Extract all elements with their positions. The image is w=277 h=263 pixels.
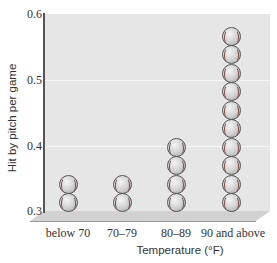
baseball-icon: [222, 101, 241, 120]
y-tick-label: 0.6: [14, 8, 42, 20]
baseball-icon: [113, 193, 132, 212]
baseball-icon: [222, 156, 241, 175]
column-below-70: [58, 175, 78, 212]
baseball-icon: [222, 175, 241, 194]
baseball-icon: [222, 119, 241, 138]
y-axis-line: [43, 13, 45, 213]
baseball-icon: [222, 138, 241, 157]
baseball-icon: [59, 193, 78, 212]
baseball-icon: [222, 27, 241, 46]
baseball-icon: [222, 82, 241, 101]
baseball-icon: [113, 175, 132, 194]
baseball-icon: [167, 193, 186, 212]
baseball-icon: [222, 45, 241, 64]
floor-edge: [30, 221, 256, 222]
x-tick-label: 90 and above: [193, 226, 273, 241]
column-70-79: [112, 175, 132, 212]
y-tick-label: 0.4: [14, 140, 42, 152]
y-tick-label: 0.5: [14, 74, 42, 86]
plot-floor: [30, 211, 270, 221]
baseball-icon: [222, 64, 241, 83]
x-axis-title: Temperature (°F): [120, 244, 240, 256]
baseball-icon: [222, 193, 241, 212]
column-90-and-above: [221, 27, 241, 212]
y-axis-title: Hit by pitch per game: [6, 58, 18, 178]
baseball-icon: [167, 175, 186, 194]
y-tick-label: 0.3: [14, 205, 42, 217]
column-80-89: [166, 138, 186, 212]
baseball-icon: [59, 175, 78, 194]
baseball-icon: [167, 138, 186, 157]
baseball-icon: [167, 156, 186, 175]
